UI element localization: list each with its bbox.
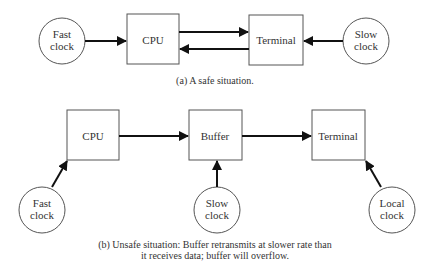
node-label: Fast [33, 197, 51, 209]
node-b-cpu: CPU [67, 110, 119, 160]
diagram-a: Fast clock CPU Terminal Slow clock (a) A… [39, 14, 389, 87]
node-label: Fast [53, 28, 71, 40]
node-b-terminal: Terminal [312, 110, 365, 160]
node-label: Local [379, 197, 404, 209]
node-b-buffer: Buffer [189, 110, 242, 160]
node-label: Terminal [256, 34, 296, 46]
node-b-fast-clock: Fast clock [19, 187, 65, 233]
node-label: CPU [82, 130, 103, 142]
node-label: Buffer [201, 130, 230, 142]
caption-b-line2: it receives data; buffer will overflow. [141, 250, 289, 261]
clock-diagram-canvas: Fast clock CPU Terminal Slow clock (a) A… [0, 0, 431, 262]
node-label: Slow [206, 197, 229, 209]
diagram-b: CPU Buffer Terminal Fast clock Slow cloc… [19, 110, 415, 261]
caption-a: (a) A safe situation. [176, 75, 254, 87]
arrow-icon [366, 161, 381, 187]
node-label: clock [380, 209, 404, 221]
node-a-fast-clock: Fast clock [39, 18, 85, 64]
arrow-icon [52, 161, 67, 187]
node-label: clock [50, 40, 74, 52]
node-label: clock [205, 209, 229, 221]
node-a-slow-clock: Slow clock [343, 18, 389, 64]
node-a-terminal: Terminal [249, 15, 303, 65]
node-label: CPU [142, 34, 163, 46]
node-label: clock [354, 40, 378, 52]
node-label: Terminal [318, 130, 358, 142]
node-label: clock [30, 209, 54, 221]
node-b-local-clock: Local clock [369, 187, 415, 233]
node-a-cpu: CPU [127, 14, 179, 64]
node-label: Slow [355, 28, 378, 40]
node-b-slow-clock: Slow clock [194, 187, 240, 233]
